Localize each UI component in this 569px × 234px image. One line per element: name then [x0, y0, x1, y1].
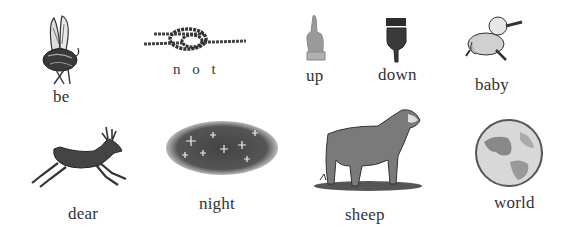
label-sheep: sheep [345, 205, 385, 225]
label-world: world [494, 193, 535, 213]
label-up: up [306, 66, 323, 86]
starry-night-sky-icon [164, 119, 280, 177]
globe-icon [474, 118, 544, 188]
label-night: night [199, 194, 235, 214]
bee-icon [38, 14, 88, 86]
label-be: be [53, 87, 69, 107]
knot-icon [142, 26, 248, 56]
label-down: down [378, 65, 417, 85]
label-baby: baby [475, 75, 509, 95]
baby-crawling-icon [462, 14, 526, 64]
hand-pointing-up-icon [303, 14, 327, 62]
hand-pointing-down-icon [384, 16, 410, 64]
label-dear: dear [68, 204, 98, 224]
deer-leaping-icon [28, 125, 132, 201]
sheep-icon [306, 104, 424, 192]
label-not: n o t [173, 61, 220, 78]
